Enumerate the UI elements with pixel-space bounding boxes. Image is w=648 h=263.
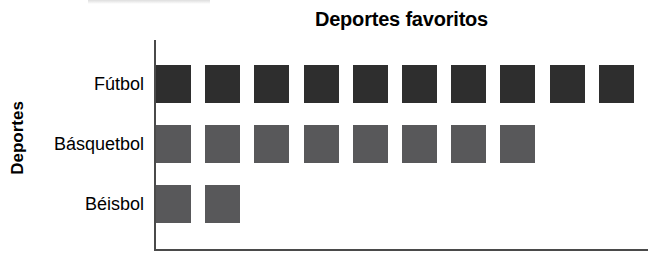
picto-square xyxy=(205,125,240,163)
category-row-futbol: Fútbol xyxy=(0,62,648,106)
plot-area: Fútbol Básquetbol Béisbol xyxy=(0,0,648,263)
picto-square xyxy=(304,125,339,163)
category-label-futbol: Fútbol xyxy=(94,62,149,106)
category-label-beisbol: Béisbol xyxy=(85,182,149,226)
category-row-basquetbol: Básquetbol xyxy=(0,122,648,166)
category-row-beisbol: Béisbol xyxy=(0,182,648,226)
picto-square xyxy=(402,65,437,103)
picto-square xyxy=(254,65,289,103)
picto-square xyxy=(451,125,486,163)
picto-square xyxy=(402,125,437,163)
picto-square xyxy=(353,65,388,103)
picto-square xyxy=(205,65,240,103)
picto-square xyxy=(205,185,240,223)
pictograph-chart: Deportes favoritos Deportes Fútbol Básqu… xyxy=(0,0,648,263)
picto-square xyxy=(304,65,339,103)
picto-square xyxy=(156,125,191,163)
picto-square xyxy=(451,65,486,103)
picto-square xyxy=(599,65,634,103)
picto-square xyxy=(353,125,388,163)
picto-square xyxy=(500,65,535,103)
picto-square xyxy=(156,185,191,223)
picto-square xyxy=(500,125,535,163)
picto-square xyxy=(156,65,191,103)
category-label-basquetbol: Básquetbol xyxy=(54,122,149,166)
picto-square xyxy=(550,65,585,103)
picto-square xyxy=(254,125,289,163)
